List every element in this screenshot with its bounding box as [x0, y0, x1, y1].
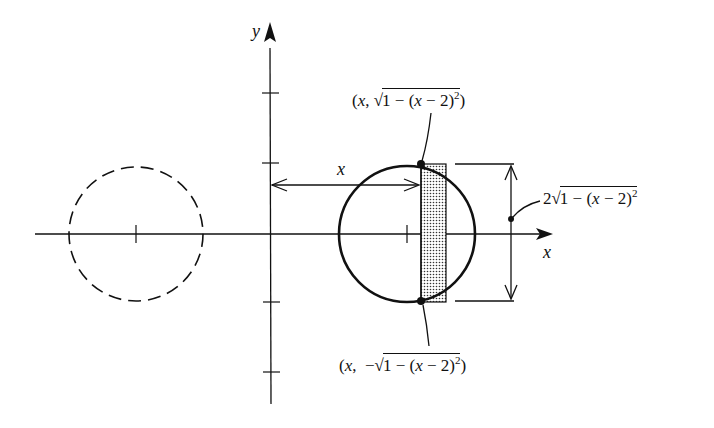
- height-label: 2√1 − (x − 2)2: [543, 186, 637, 207]
- top-leader-line: [422, 113, 431, 161]
- distance-arrow: [272, 179, 419, 191]
- top-point-label: (x, √1 − (x − 2)2): [352, 88, 465, 109]
- y-axis-arrow-icon: [264, 22, 276, 42]
- y-axis-label: y: [252, 22, 260, 40]
- height-dimension: [455, 164, 540, 301]
- x-axis-label: x: [543, 243, 551, 261]
- bottom-point: [417, 297, 425, 305]
- y-axis: [262, 22, 280, 404]
- bottom-leader-line: [423, 305, 429, 346]
- distance-label: x: [337, 160, 345, 178]
- top-point: [417, 160, 425, 168]
- bottom-point-label: (x, −√1 − (x − 2)2): [339, 353, 466, 374]
- diagram: y x x (x, √1 − (x − 2)2) (x, −√1 − (x − …: [0, 0, 714, 428]
- shaded-strip: [421, 164, 446, 302]
